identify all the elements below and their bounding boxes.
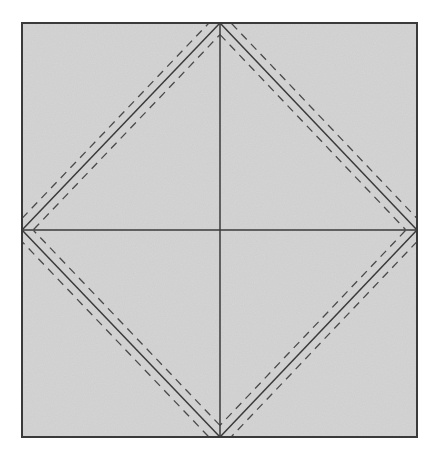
folding-diagram — [0, 0, 437, 458]
diagram-canvas — [0, 0, 437, 458]
